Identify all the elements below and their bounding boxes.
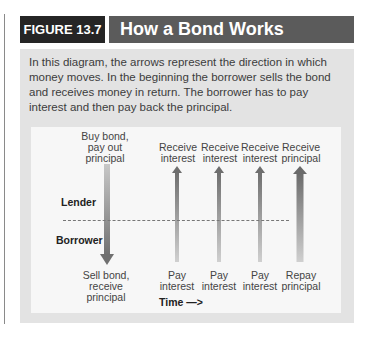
margin-rule [4, 14, 5, 324]
lender-borrower-divider [63, 220, 289, 221]
figure-number: FIGURE 13.7 [20, 16, 105, 43]
figure-title: How a Bond Works [109, 16, 354, 43]
arrow-up-principal-icon [293, 166, 307, 262]
figure-intro-text: In this diagram, the arrows represent th… [29, 55, 349, 115]
arrow-up-interest-icon [172, 166, 182, 262]
label-receive-principal: Receive principal [266, 142, 336, 164]
role-lender: Lender [61, 196, 96, 208]
role-borrower: Borrower [56, 234, 103, 246]
arrow-down-principal-icon [100, 164, 114, 266]
arrow-up-interest-icon [214, 166, 224, 262]
time-axis-label: Time —> [159, 296, 203, 308]
label-sell-bond: Sell bond, receive principal [71, 270, 141, 303]
label-repay-principal: Repay principal [266, 270, 336, 292]
arrow-up-interest-icon [255, 166, 265, 262]
label-buy-bond: Buy bond, pay out principal [70, 131, 140, 164]
